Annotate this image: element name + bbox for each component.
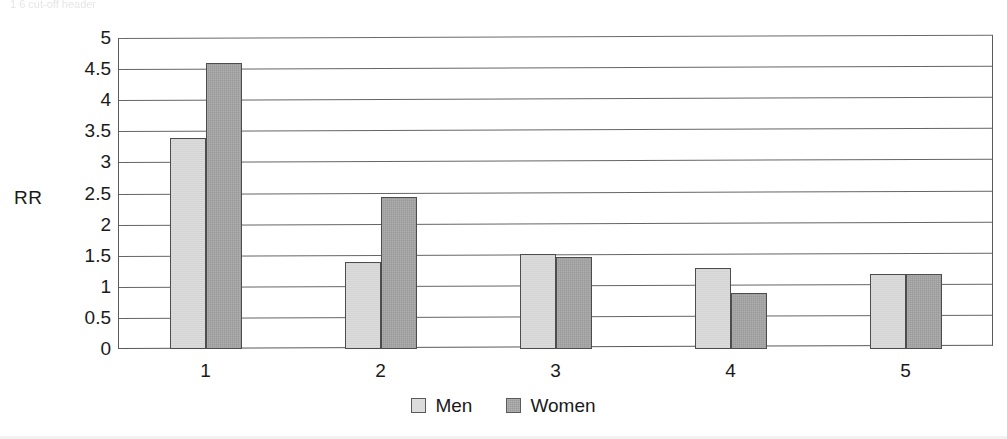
bar-group	[520, 38, 592, 349]
y-tick-label: 3	[46, 152, 111, 172]
y-tick-label: 2	[46, 215, 111, 235]
legend-label: Men	[435, 396, 472, 415]
bar-men-3[interactable]	[520, 254, 556, 349]
y-tick-label: 0	[46, 339, 111, 359]
bar-women-5[interactable]	[906, 274, 942, 349]
bar-men-4[interactable]	[695, 268, 731, 349]
legend-label: Women	[530, 396, 595, 415]
y-tick-label: 1	[46, 277, 111, 297]
y-tick-label: 5	[46, 28, 111, 48]
chart-legend: MenWomen	[0, 396, 1007, 415]
bars-layer	[118, 38, 993, 349]
x-tick-label: 2	[293, 358, 468, 384]
y-axis-title: RR	[14, 187, 42, 209]
legend-swatch-icon	[411, 398, 426, 413]
x-tick-label: 4	[643, 358, 818, 384]
y-tick-label: 4.5	[46, 59, 111, 79]
grouped-bar-chart: RR 54.543.532.521.510.50 12345 MenWomen	[0, 0, 1007, 439]
plot-area	[118, 38, 993, 349]
x-axis-tick-labels: 12345	[118, 358, 993, 388]
bar-group	[870, 38, 942, 349]
y-tick-label: 2.5	[46, 184, 111, 204]
bar-men-2[interactable]	[345, 262, 381, 349]
y-axis-tick-labels: 54.543.532.521.510.50	[46, 28, 111, 360]
bar-women-2[interactable]	[381, 197, 417, 349]
bar-women-1[interactable]	[206, 63, 242, 349]
bar-group	[345, 38, 417, 349]
bar-women-3[interactable]	[556, 257, 592, 349]
y-tick-label: 3.5	[46, 121, 111, 141]
legend-swatch-icon	[506, 398, 521, 413]
bar-men-5[interactable]	[870, 274, 906, 349]
legend-item-men[interactable]: Men	[411, 396, 472, 415]
y-tick-label: 4	[46, 90, 111, 110]
bar-women-4[interactable]	[731, 293, 767, 349]
bar-men-1[interactable]	[170, 138, 206, 349]
x-tick-label: 5	[818, 358, 993, 384]
legend-item-women[interactable]: Women	[506, 396, 595, 415]
y-tick-label: 0.5	[46, 308, 111, 328]
x-tick-label: 3	[468, 358, 643, 384]
y-tick-label: 1.5	[46, 246, 111, 266]
bar-group	[170, 38, 242, 349]
x-tick-label: 1	[118, 358, 293, 384]
bar-group	[695, 38, 767, 349]
